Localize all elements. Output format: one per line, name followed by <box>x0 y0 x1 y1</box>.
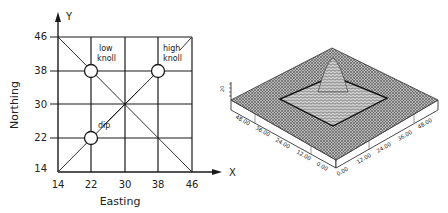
y-tick: 14 <box>34 163 47 174</box>
x-tick: 22 <box>85 179 98 190</box>
x-tick: 14 <box>52 179 65 190</box>
y-tick: 22 <box>34 132 47 143</box>
y-axis-arrow-icon <box>55 12 61 22</box>
y-tick-labels: 46 38 30 22 14 <box>34 31 47 174</box>
x-arrow-label: X <box>229 167 236 178</box>
dip-label: dip <box>98 121 110 130</box>
x-tick: 46 <box>186 179 199 190</box>
low-knoll-label: knoll <box>97 54 116 63</box>
x-tick: 30 <box>119 179 132 190</box>
y-tick-marks <box>50 37 58 138</box>
x-axis-arrow-icon <box>212 169 222 175</box>
y-arrow-label: Y <box>65 11 73 22</box>
high-knoll-label: high <box>163 44 180 53</box>
x-tick: 38 <box>152 179 165 190</box>
high-knoll-marker <box>152 65 165 78</box>
x-tick-labels: 14 22 30 38 46 <box>52 179 199 190</box>
low-knoll-marker <box>85 65 98 78</box>
z-tick-label: 20 <box>219 86 225 92</box>
y-axis-title: Northing <box>8 81 21 129</box>
high-knoll-label: knoll <box>163 54 182 63</box>
annotations: low knoll high knoll dip <box>97 44 182 130</box>
y-tick: 38 <box>34 65 47 76</box>
y-tick: 46 <box>34 31 47 42</box>
dip-marker <box>85 132 98 145</box>
figure: Y X 46 38 30 22 14 14 22 30 38 46 Eastin… <box>0 0 448 213</box>
y-tick: 30 <box>34 99 47 110</box>
center-point <box>124 103 126 105</box>
surface-plot: 20 48.00 36.00 24.00 12.00 0.00 0.00 12.… <box>219 48 438 177</box>
x-axis-title: Easting <box>100 195 141 208</box>
low-knoll-label: low <box>99 44 113 53</box>
grid-diagram: Y X 46 38 30 22 14 14 22 30 38 46 Eastin… <box>8 11 236 208</box>
